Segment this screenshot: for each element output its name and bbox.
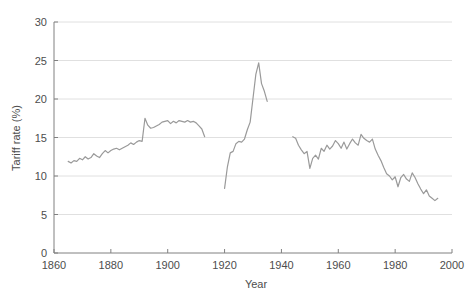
- x-tick-label-2000: 2000: [440, 259, 464, 271]
- x-tick-label-1980: 1980: [383, 259, 407, 271]
- y-axis-title: Tariff rate (%): [10, 105, 22, 171]
- x-tick-label-1880: 1880: [99, 259, 123, 271]
- tariff-rate-chart: 18601880190019201940196019802000 0510152…: [0, 0, 472, 301]
- x-tick-label-1920: 1920: [212, 259, 236, 271]
- y-tick-label-0: 0: [41, 247, 47, 259]
- y-tick-label-10: 10: [35, 170, 47, 182]
- x-tick-label-1900: 1900: [155, 259, 179, 271]
- x-tick-label-1860: 1860: [42, 259, 66, 271]
- x-axis-title: Year: [245, 278, 268, 290]
- y-tick-label-15: 15: [35, 132, 47, 144]
- y-tick-label-5: 5: [41, 209, 47, 221]
- x-tick-label-1960: 1960: [326, 259, 350, 271]
- y-tick-label-30: 30: [35, 16, 47, 28]
- y-tick-label-20: 20: [35, 93, 47, 105]
- chart-canvas: 18601880190019201940196019802000 0510152…: [0, 0, 472, 301]
- y-tick-label-25: 25: [35, 55, 47, 67]
- x-tick-label-1940: 1940: [269, 259, 293, 271]
- chart-background: [0, 0, 472, 301]
